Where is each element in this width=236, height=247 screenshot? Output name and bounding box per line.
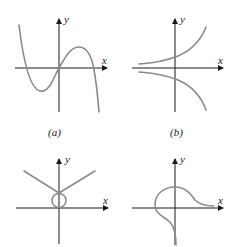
x-axis-label: x — [217, 194, 223, 206]
loop-decay-curve — [155, 187, 214, 245]
x-axis-label: x — [101, 54, 107, 66]
y-axis-label: y — [64, 153, 70, 165]
panel-b: y x (b) — [132, 13, 223, 139]
panel-caption: (b) — [170, 126, 183, 139]
panel-c: y x — [16, 153, 108, 244]
x-axis-label: x — [102, 194, 108, 206]
y-axis-label: y — [179, 13, 185, 25]
y-axis-label: y — [179, 153, 185, 165]
panel-d: y x — [132, 153, 223, 245]
panel-caption: (a) — [48, 126, 61, 139]
panel-a: y x (a) — [15, 13, 107, 139]
lower-exponential-curve — [139, 72, 206, 110]
figure-canvas: y x (a) y x (b) y x y x — [0, 0, 236, 247]
x-axis-label: x — [217, 54, 223, 66]
upper-exponential-curve — [139, 27, 206, 64]
y-axis-label: y — [63, 13, 69, 25]
